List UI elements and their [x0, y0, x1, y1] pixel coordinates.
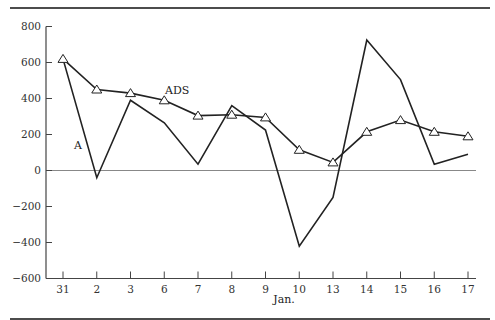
x-tick-label: 15	[394, 283, 407, 295]
x-tick-labels: 31236789101314151617	[56, 283, 474, 295]
x-tick-label: 3	[127, 283, 134, 295]
data-point-ads	[396, 116, 406, 124]
y-tick-label: −400	[12, 236, 41, 248]
x-tick-label: 2	[93, 283, 100, 295]
x-tick-label: 7	[195, 283, 202, 295]
x-tick-label: 31	[56, 283, 69, 295]
x-tick-label: 17	[461, 283, 474, 295]
y-tick-labels: 8006004002000−200−400−600	[12, 20, 41, 284]
x-tick-label: 14	[360, 283, 374, 295]
y-tick-label: 600	[21, 56, 41, 68]
y-tick-label: 800	[21, 20, 41, 32]
series-line-ads	[63, 59, 468, 162]
y-tick-label: 400	[21, 92, 41, 104]
y-tick-label: 0	[34, 164, 41, 176]
x-tick-label: 16	[428, 283, 442, 295]
series-label-a: A	[73, 139, 83, 152]
axes	[46, 27, 476, 279]
series-line-a	[63, 40, 468, 246]
y-tick-label: 200	[21, 128, 41, 140]
y-tick-label: −600	[12, 272, 41, 284]
x-axis-label: Jan.	[272, 293, 295, 306]
series-label-ads: ADS	[164, 84, 189, 97]
chart: 8006004002000−200−400−600 31236789101314…	[0, 0, 495, 320]
y-tick-label: −200	[12, 200, 41, 212]
x-tick-label: 9	[262, 283, 269, 295]
x-tick-label: 13	[326, 283, 339, 295]
x-tick-label: 8	[228, 283, 235, 295]
series-group	[58, 40, 473, 246]
data-point-ads	[58, 54, 68, 62]
x-tick-label: 6	[161, 283, 168, 295]
